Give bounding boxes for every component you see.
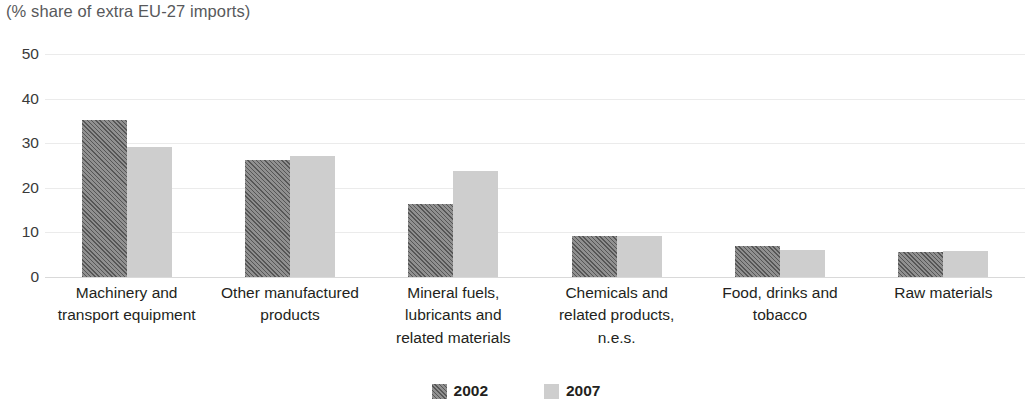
x-axis-label-1: Other manufacturedproducts bbox=[208, 282, 371, 327]
category-label-line: Machinery and bbox=[45, 282, 208, 304]
x-axis-label-2: Mineral fuels,lubricants andrelated mate… bbox=[372, 282, 535, 349]
category-label-line: Food, drinks and bbox=[698, 282, 861, 304]
bar-2007-2 bbox=[453, 171, 498, 277]
y-axis-tick-20: 20 bbox=[5, 180, 39, 196]
bar-2002-1 bbox=[245, 160, 290, 277]
bar-2007-3 bbox=[617, 236, 662, 277]
category-label-line: Chemicals and bbox=[535, 282, 698, 304]
x-axis-category-labels: Machinery andtransport equipmentOther ma… bbox=[45, 282, 1025, 372]
bar-2007-4 bbox=[780, 250, 825, 277]
bar-2002-3 bbox=[572, 236, 617, 277]
category-label-line: lubricants and bbox=[372, 304, 535, 326]
bar-2002-4 bbox=[735, 246, 780, 277]
y-axis-tick-0: 0 bbox=[5, 269, 39, 285]
category-label-line: Mineral fuels, bbox=[372, 282, 535, 304]
category-label-line: related products, bbox=[535, 304, 698, 326]
gridline-0 bbox=[45, 277, 1025, 278]
x-axis-label-4: Food, drinks andtobacco bbox=[698, 282, 861, 327]
category-label-line: related materials bbox=[372, 327, 535, 349]
y-axis: 01020304050 bbox=[0, 54, 39, 277]
legend-item-2007[interactable]: 2007 bbox=[544, 382, 600, 400]
category-label-line: transport equipment bbox=[45, 304, 208, 326]
category-label-line: Other manufactured bbox=[208, 282, 371, 304]
x-axis-label-3: Chemicals andrelated products,n.e.s. bbox=[535, 282, 698, 349]
category-label-line: Raw materials bbox=[862, 282, 1025, 304]
bar-2007-1 bbox=[290, 156, 335, 277]
x-axis-label-0: Machinery andtransport equipment bbox=[45, 282, 208, 327]
bar-2007-5 bbox=[943, 251, 988, 277]
category-label-line: tobacco bbox=[698, 304, 861, 326]
category-label-line: n.e.s. bbox=[535, 327, 698, 349]
bars-layer bbox=[45, 54, 1025, 277]
legend-label-2002: 2002 bbox=[454, 382, 488, 400]
bar-2007-0 bbox=[127, 147, 172, 277]
legend-swatch-icon-2007 bbox=[544, 384, 559, 399]
category-label-line: products bbox=[208, 304, 371, 326]
legend-label-2007: 2007 bbox=[566, 382, 600, 400]
bar-2002-2 bbox=[408, 204, 453, 277]
y-axis-tick-40: 40 bbox=[5, 91, 39, 107]
x-axis-label-5: Raw materials bbox=[862, 282, 1025, 304]
chart-subtitle: (% share of extra EU-27 imports) bbox=[6, 2, 250, 21]
y-axis-tick-50: 50 bbox=[5, 46, 39, 62]
y-axis-tick-10: 10 bbox=[5, 225, 39, 241]
y-axis-tick-30: 30 bbox=[5, 135, 39, 151]
bar-2002-5 bbox=[898, 252, 943, 277]
bar-2002-0 bbox=[82, 120, 127, 277]
legend-swatch-icon-2002 bbox=[432, 384, 447, 399]
chart-legend: 20022007 bbox=[0, 382, 1032, 400]
legend-item-2002[interactable]: 2002 bbox=[432, 382, 488, 400]
